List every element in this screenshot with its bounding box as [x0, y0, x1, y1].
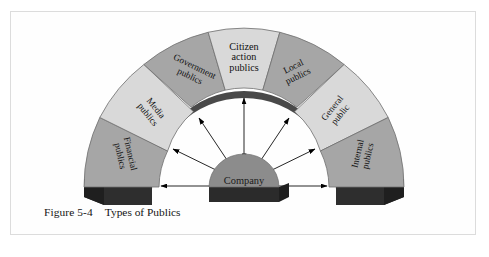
- company-label: Company: [224, 175, 265, 186]
- figure-frame: Financial publics Media publics: [10, 11, 476, 235]
- figure-caption-number: Figure 5-4: [44, 206, 93, 218]
- arrow-to-media-publics: [173, 149, 218, 171]
- figure-caption-title: Types of Publics: [105, 206, 181, 218]
- figure-container: Financial publics Media publics: [0, 0, 489, 257]
- company-dome-base: [209, 187, 279, 202]
- arrow-to-government-publics: [199, 118, 227, 160]
- arrow-to-general-public: [270, 149, 315, 171]
- arrow-to-local-publics: [261, 118, 289, 160]
- segment-citizen-action-publics-line3: publics: [229, 62, 258, 73]
- figure-caption: Figure 5-4Types of Publics: [44, 206, 181, 218]
- types-of-publics-diagram: Financial publics Media publics: [11, 12, 477, 236]
- segment-citizen-action-publics-line2: action: [232, 51, 257, 62]
- segment-citizen-action-publics-line1: Citizen: [229, 41, 258, 52]
- company-node[interactable]: Company: [209, 154, 289, 202]
